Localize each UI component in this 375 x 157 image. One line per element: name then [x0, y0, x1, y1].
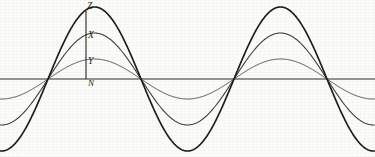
- label-origin: N: [88, 79, 94, 88]
- label-peak-large: Z: [87, 2, 92, 12]
- label-peak-small: Y: [88, 57, 93, 67]
- figure-canvas: Z X Y N: [0, 0, 375, 157]
- harmonic-curves-plot: [0, 0, 375, 157]
- label-peak-medium: X: [88, 31, 94, 41]
